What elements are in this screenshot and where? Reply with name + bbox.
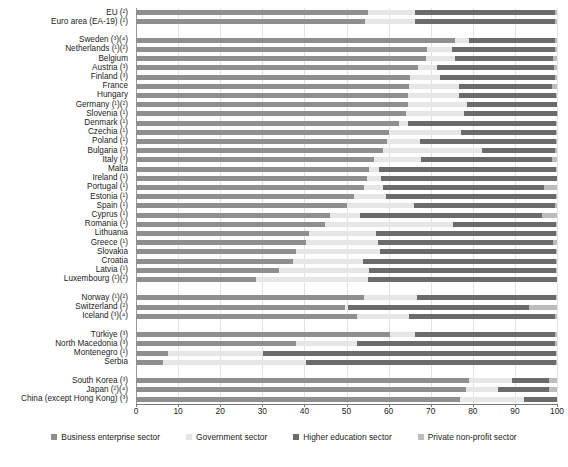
bar-row	[136, 229, 557, 238]
bar-spacer	[136, 26, 557, 35]
bar-segment-2	[360, 213, 541, 218]
bar-segment-2	[455, 56, 553, 61]
bar-segment-1	[426, 56, 455, 61]
category-label: Euro area (EA-19) (²)	[0, 17, 132, 26]
gridline	[557, 8, 558, 404]
bar-segment-0	[136, 102, 408, 107]
bar-segment-3	[556, 351, 557, 356]
bar-spacer	[136, 284, 557, 293]
legend-swatch-icon	[293, 434, 299, 440]
bar-row	[136, 312, 557, 321]
legend-label: Government sector	[196, 432, 267, 442]
bar-segment-3	[555, 75, 557, 80]
bar-row	[136, 45, 557, 54]
bar-row	[136, 128, 557, 137]
bar-segment-2	[409, 314, 556, 319]
bar-segment-1	[354, 194, 386, 199]
bar-segment-1	[368, 10, 415, 15]
bar-segment-2	[420, 139, 556, 144]
bar-segment-0	[136, 268, 279, 273]
legend-item[interactable]: Business enterprise sector	[51, 432, 160, 442]
bar-segment-3	[556, 259, 557, 264]
bar-segment-0	[136, 75, 410, 80]
bar-segment-3	[555, 203, 557, 208]
bar-segment-1	[408, 102, 467, 107]
category-label: Greece (¹)	[0, 238, 132, 247]
bar-segment-3	[549, 387, 557, 392]
bar-segment-3	[555, 10, 557, 15]
bar-segment-3	[544, 185, 557, 190]
bar-row	[136, 192, 557, 201]
bar-segment-3	[556, 222, 557, 227]
bar-segment-2	[524, 397, 557, 402]
bar-row	[136, 358, 557, 367]
bar-row	[136, 385, 557, 394]
bar-segment-2	[376, 231, 556, 236]
legend-item[interactable]: Private non-profit sector	[418, 432, 517, 442]
x-axis-ticks: 0102030405060708090100	[136, 406, 557, 420]
bar-segment-1	[383, 148, 482, 153]
bar-segment-2	[306, 360, 556, 365]
bar-segment-1	[406, 111, 464, 116]
bar-segment-0	[136, 176, 367, 181]
bar-segment-1	[399, 121, 409, 126]
bar-row	[136, 63, 557, 72]
category-label: Hungary	[0, 91, 132, 100]
bar-segment-3	[556, 295, 557, 300]
bar-row	[136, 8, 557, 17]
bar-segment-3	[555, 314, 557, 319]
bar-segment-2	[368, 277, 557, 282]
bar-segment-0	[136, 111, 406, 116]
chart-container: EU (²)Euro area (EA-19) (²)Sweden (³)(⁴)…	[0, 0, 568, 467]
bar-row	[136, 303, 557, 312]
tick-label: 50	[342, 406, 351, 416]
category-spacer	[0, 321, 132, 330]
bar-segment-0	[136, 332, 390, 337]
bar-segment-0	[136, 121, 399, 126]
bar-segment-3	[556, 231, 557, 236]
category-label: Estonia (¹)	[0, 192, 132, 201]
chart-legend: Business enterprise sectorGovernment sec…	[0, 432, 568, 442]
bar-segment-1	[357, 314, 409, 319]
bar-segment-2	[386, 194, 555, 199]
tick-label: 90	[510, 406, 519, 416]
bar-segment-2	[408, 121, 555, 126]
category-label: Serbia	[0, 358, 132, 367]
bar-row	[136, 146, 557, 155]
bar-segment-1	[168, 351, 263, 356]
bar-row	[136, 183, 557, 192]
bar-row	[136, 330, 557, 339]
bar-segment-1	[455, 38, 469, 43]
bar-row	[136, 155, 557, 164]
legend-swatch-icon	[186, 434, 192, 440]
bar-segment-2	[461, 130, 555, 135]
bar-segment-1	[410, 75, 439, 80]
bar-segment-2	[417, 295, 556, 300]
bar-segment-0	[136, 213, 330, 218]
bar-row	[136, 256, 557, 265]
category-spacer	[0, 367, 132, 376]
bar-segment-3	[553, 240, 557, 245]
bar-segment-0	[136, 65, 418, 70]
category-label: South Korea (³)	[0, 376, 132, 385]
bar-row	[136, 36, 557, 45]
bar-segment-2	[415, 10, 555, 15]
bar-segment-3	[556, 139, 557, 144]
bar-segment-1	[460, 397, 524, 402]
bar-segment-0	[136, 231, 309, 236]
bar-segment-1	[469, 378, 512, 383]
bar-segment-0	[136, 277, 256, 282]
bar-segment-1	[306, 240, 379, 245]
bar-segment-0	[136, 351, 168, 356]
category-label: China (except Hong Kong) (³)	[0, 395, 132, 404]
bar-spacer	[136, 321, 557, 330]
bar-segment-1	[389, 130, 462, 135]
bar-segment-2	[512, 378, 550, 383]
bar-segment-2	[464, 111, 557, 116]
legend-item[interactable]: Government sector	[186, 432, 267, 442]
bar-segment-3	[556, 121, 557, 126]
bar-segment-3	[556, 268, 557, 273]
legend-item[interactable]: Higher education sector	[293, 432, 391, 442]
bar-row	[136, 82, 557, 91]
bar-row	[136, 54, 557, 63]
